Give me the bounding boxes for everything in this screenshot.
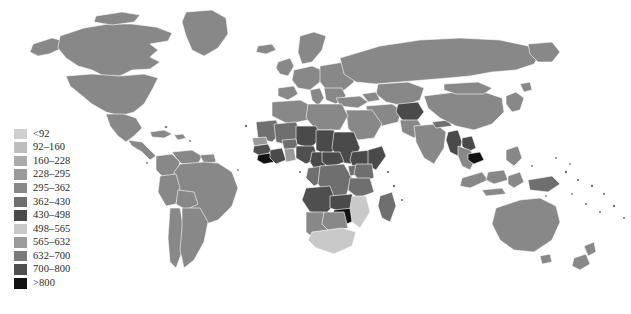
- legend-label: 565–632: [33, 237, 70, 248]
- island-speck: [237, 169, 239, 171]
- legend: <92 92–160 160–228 228–295 295–362 362–4…: [14, 127, 70, 290]
- legend-label: 430–498: [33, 210, 70, 221]
- island-speck: [599, 211, 601, 213]
- legend-swatch: [14, 129, 27, 140]
- island-speck: [571, 193, 573, 195]
- legend-swatch: [14, 264, 27, 275]
- legend-label: 700–800: [33, 264, 70, 275]
- legend-swatch: [14, 183, 27, 194]
- world-choropleth-figure: <92 92–160 160–228 228–295 295–362 362–4…: [0, 0, 631, 314]
- legend-item: 295–362: [14, 181, 70, 195]
- legend-swatch: [14, 237, 27, 248]
- island-speck: [577, 179, 579, 181]
- world-map: [0, 0, 631, 314]
- island-speck: [401, 199, 403, 201]
- legend-swatch: [14, 224, 27, 235]
- island-speck: [555, 157, 557, 159]
- legend-swatch: [14, 251, 27, 262]
- legend-swatch: [14, 210, 27, 221]
- legend-label: 362–430: [33, 197, 70, 208]
- legend-swatch: [14, 142, 27, 153]
- legend-label: 295–362: [33, 183, 70, 194]
- island-speck: [165, 126, 168, 129]
- legend-item: 700–800: [14, 263, 70, 277]
- legend-item: 632–700: [14, 249, 70, 263]
- legend-item: >800: [14, 277, 70, 291]
- legend-label: >800: [33, 278, 55, 289]
- island-speck: [603, 193, 605, 195]
- island-speck: [189, 140, 191, 142]
- legend-item: 92–160: [14, 141, 70, 155]
- legend-swatch: [14, 156, 27, 167]
- region-burkina-faso: [282, 139, 298, 149]
- island-speck: [545, 195, 547, 197]
- legend-label: <92: [33, 129, 50, 140]
- legend-item: 498–565: [14, 222, 70, 236]
- region-ghana: [284, 148, 296, 162]
- island-speck: [623, 217, 625, 219]
- legend-item: <92: [14, 127, 70, 141]
- island-speck: [591, 185, 593, 187]
- legend-item: 565–632: [14, 236, 70, 250]
- legend-item: 430–498: [14, 209, 70, 223]
- legend-swatch: [14, 197, 27, 208]
- island-speck: [245, 125, 247, 127]
- island-speck: [299, 171, 301, 173]
- legend-swatch: [14, 169, 27, 180]
- island-speck: [393, 185, 395, 187]
- region-tasmania: [540, 254, 552, 264]
- legend-item: 362–430: [14, 195, 70, 209]
- island-speck: [585, 203, 587, 205]
- legend-item: 160–228: [14, 154, 70, 168]
- island-speck: [569, 163, 571, 165]
- island-speck: [565, 171, 567, 173]
- island-speck: [387, 171, 389, 173]
- island-speck: [146, 162, 148, 164]
- legend-label: 92–160: [33, 142, 65, 153]
- legend-label: 228–295: [33, 169, 70, 180]
- legend-label: 498–565: [33, 224, 70, 235]
- island-speck: [613, 205, 615, 207]
- legend-label: 632–700: [33, 251, 70, 262]
- legend-label: 160–228: [33, 156, 70, 167]
- island-speck: [531, 165, 533, 167]
- legend-item: 228–295: [14, 168, 70, 182]
- legend-swatch: [14, 278, 27, 289]
